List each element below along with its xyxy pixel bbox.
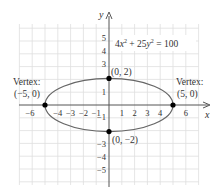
svg-text:−3: −3 — [97, 139, 106, 149]
svg-text:5: 5 — [102, 33, 106, 43]
right-vertex-coords: (5, 0) — [177, 89, 198, 100]
right-vertex-title: Vertex: — [176, 77, 203, 87]
ellipse-graph: y x 4x2 + 25y2 = 100 5 4 3 1 −1 −3 −4 −5… — [0, 0, 223, 194]
svg-text:−4: −4 — [97, 152, 107, 162]
co-vertex-bottom-point — [106, 129, 111, 134]
x-axis-label: x — [204, 109, 210, 120]
svg-text:4: 4 — [158, 108, 163, 118]
svg-text:3: 3 — [145, 108, 149, 118]
svg-text:3: 3 — [102, 59, 106, 69]
vertex-right-point — [170, 102, 175, 107]
svg-text:−3: −3 — [66, 108, 75, 118]
x-tick-labels: −6 −4 −3 −2 −1 1 2 3 4 6 — [25, 108, 187, 118]
svg-text:6: 6 — [184, 108, 188, 118]
bottom-point-label: (0, −2) — [112, 135, 138, 146]
svg-text:−4: −4 — [53, 108, 63, 118]
y-axis-label: y — [98, 9, 104, 20]
svg-text:4: 4 — [102, 46, 107, 56]
left-vertex-title: Vertex: — [13, 77, 40, 87]
svg-text:2: 2 — [132, 108, 136, 118]
svg-text:1: 1 — [102, 87, 106, 97]
vertex-left-point — [42, 102, 47, 107]
svg-text:−2: −2 — [79, 108, 88, 118]
left-vertex-coords: (−5, 0) — [14, 89, 40, 100]
top-point-label: (0, 2) — [111, 67, 132, 78]
svg-text:−1: −1 — [92, 108, 101, 118]
svg-text:1: 1 — [120, 108, 124, 118]
svg-text:−5: −5 — [97, 165, 106, 175]
svg-text:−6: −6 — [25, 108, 34, 118]
